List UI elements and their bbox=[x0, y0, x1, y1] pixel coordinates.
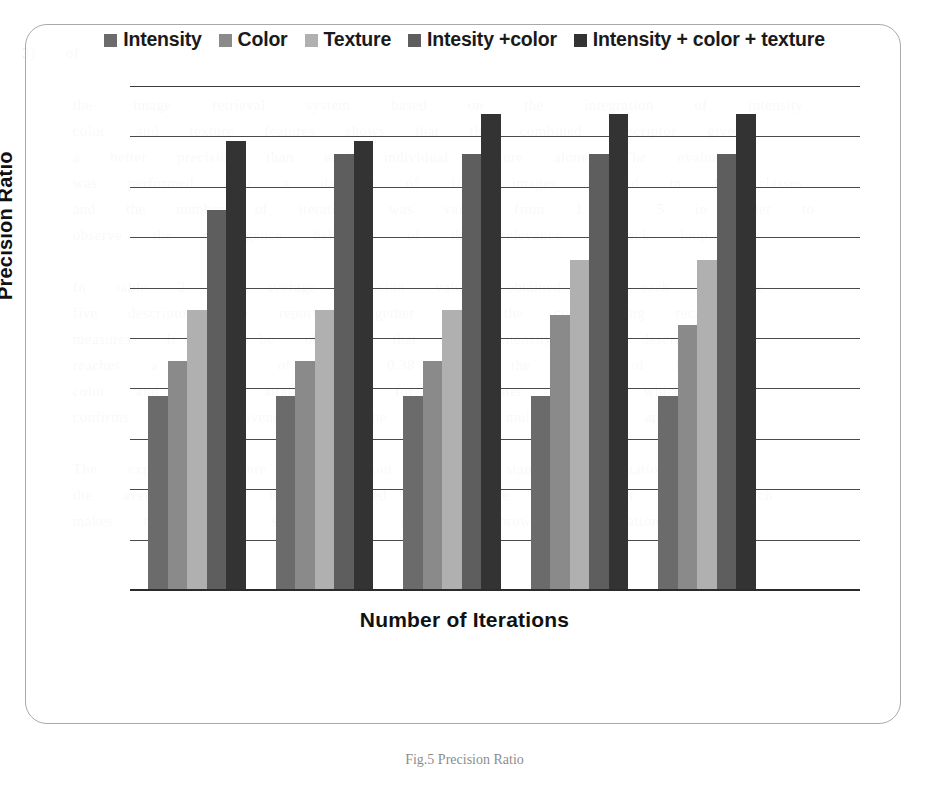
figure-caption: Fig.5 Precision Ratio bbox=[0, 752, 929, 768]
bar[interactable] bbox=[354, 141, 374, 590]
bar-group bbox=[276, 86, 374, 590]
legend-label: Intensity bbox=[123, 28, 201, 51]
legend-item-intensity[interactable]: Intensity bbox=[104, 28, 201, 51]
bar[interactable] bbox=[609, 114, 629, 590]
plot-area bbox=[130, 86, 860, 590]
bar[interactable] bbox=[168, 361, 188, 590]
bar[interactable] bbox=[697, 260, 717, 590]
legend-label: Intensity + color + texture bbox=[593, 28, 825, 51]
bar-groups bbox=[148, 86, 860, 590]
bar[interactable] bbox=[481, 114, 501, 590]
bar[interactable] bbox=[403, 396, 423, 590]
legend-item-intensity-color-texture[interactable]: Intensity + color + texture bbox=[574, 28, 825, 51]
legend-label: Color bbox=[238, 28, 288, 51]
bar[interactable] bbox=[658, 396, 678, 590]
bar[interactable] bbox=[276, 396, 296, 590]
bar[interactable] bbox=[148, 396, 168, 590]
legend-swatch-icon bbox=[574, 34, 587, 47]
legend-label: Texture bbox=[324, 28, 392, 51]
legend-label: Intesity +color bbox=[427, 28, 557, 51]
bar[interactable] bbox=[207, 210, 227, 591]
legend-swatch-icon bbox=[219, 34, 232, 47]
bar[interactable] bbox=[531, 396, 551, 590]
legend-item-texture[interactable]: Texture bbox=[305, 28, 392, 51]
bar[interactable] bbox=[295, 361, 315, 590]
bar[interactable] bbox=[315, 310, 335, 590]
bar[interactable] bbox=[442, 310, 462, 590]
bar[interactable] bbox=[423, 361, 443, 590]
bar-group bbox=[403, 86, 501, 590]
bar[interactable] bbox=[717, 154, 737, 590]
y-axis-title: Precision Ratio bbox=[0, 151, 17, 300]
bar[interactable] bbox=[334, 154, 354, 590]
legend-item-intensity-color[interactable]: Intesity +color bbox=[408, 28, 557, 51]
bar[interactable] bbox=[589, 154, 609, 590]
legend-swatch-icon bbox=[104, 34, 117, 47]
x-axis-line bbox=[130, 589, 860, 592]
x-axis-title: Number of Iterations bbox=[0, 608, 929, 632]
chart-legend: Intensity Color Texture Intesity +color … bbox=[0, 28, 929, 51]
bar[interactable] bbox=[678, 325, 698, 590]
bar-group bbox=[148, 86, 246, 590]
bar[interactable] bbox=[736, 114, 756, 590]
bar-group bbox=[658, 86, 756, 590]
bar[interactable] bbox=[226, 141, 246, 590]
legend-swatch-icon bbox=[408, 34, 421, 47]
bar[interactable] bbox=[187, 310, 207, 590]
bar-group bbox=[531, 86, 629, 590]
bar[interactable] bbox=[462, 154, 482, 590]
bar[interactable] bbox=[570, 260, 590, 590]
bar[interactable] bbox=[550, 315, 570, 590]
legend-item-color[interactable]: Color bbox=[219, 28, 288, 51]
legend-swatch-icon bbox=[305, 34, 318, 47]
